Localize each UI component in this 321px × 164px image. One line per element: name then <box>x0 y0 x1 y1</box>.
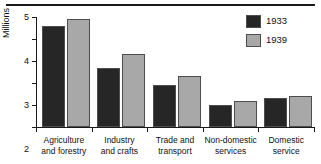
y-tick-mark: 4 <box>32 39 36 40</box>
y-tick-label: 5 <box>24 13 29 22</box>
legend-swatch-1939 <box>246 34 261 47</box>
legend-label-1939: 1939 <box>266 35 287 45</box>
bar-1933 <box>264 98 287 127</box>
category-label-line: service <box>250 146 321 157</box>
legend-item: 1933 <box>246 13 287 29</box>
y-tick-mark: 2 <box>32 83 36 84</box>
bar-1933 <box>209 105 232 127</box>
chart-legend: 1933 1939 <box>246 13 287 51</box>
legend-label-1933: 1933 <box>266 16 287 26</box>
bar-group <box>97 17 145 127</box>
legend-swatch-1933 <box>246 15 261 28</box>
y-tick-label: 3 <box>24 101 29 110</box>
bar-1933 <box>153 85 176 127</box>
y-axis-line <box>36 17 37 127</box>
x-axis-line <box>36 127 314 128</box>
y-tick-label: 4 <box>24 57 29 66</box>
bar-1939 <box>122 54 145 127</box>
category-label: Domesticservice <box>250 135 321 157</box>
category-label-line: Domestic <box>250 135 321 146</box>
bar-chart-figure: Millions 012345 Agricultureand forestryI… <box>0 0 321 164</box>
category-separator <box>203 127 204 132</box>
category-separator <box>314 127 315 132</box>
bar-1939 <box>234 101 257 127</box>
category-separator <box>92 127 93 132</box>
bar-1939 <box>67 19 90 127</box>
bar-1939 <box>178 76 201 127</box>
category-separator <box>147 127 148 132</box>
y-axis-label: Millions <box>2 8 11 38</box>
y-tick-mark: 3 <box>32 61 36 62</box>
y-tick-mark: 1 <box>32 105 36 106</box>
figure-top-rule <box>6 4 315 6</box>
category-separator <box>36 127 37 132</box>
bar-1939 <box>289 96 312 127</box>
bar-1933 <box>97 68 120 127</box>
legend-item: 1939 <box>246 32 287 48</box>
bar-group <box>42 17 90 127</box>
y-tick-mark: 5 <box>32 17 36 18</box>
category-separator <box>258 127 259 132</box>
bar-group <box>153 17 201 127</box>
bar-1933 <box>42 26 65 127</box>
